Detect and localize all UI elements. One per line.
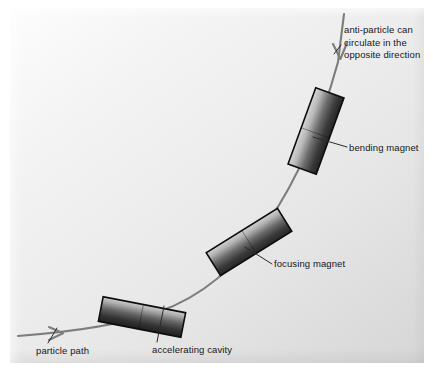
label-accelerating-cavity: accelerating cavity (152, 344, 232, 357)
label-bending-magnet: bending magnet (349, 142, 419, 155)
diagram-root: anti-particle can circulate in the oppos… (0, 0, 433, 372)
leader-lines (48, 45, 347, 343)
label-antiparticle: anti-particle can circulate in the oppos… (344, 24, 428, 62)
label-particle-path: particle path (36, 345, 89, 358)
accelerating-cavity[interactable] (98, 297, 185, 338)
label-focusing-magnet: focusing magnet (274, 258, 345, 271)
bending-magnet[interactable] (288, 88, 344, 174)
particle-path-curve (18, 14, 344, 336)
leader-particle-path (48, 328, 57, 343)
